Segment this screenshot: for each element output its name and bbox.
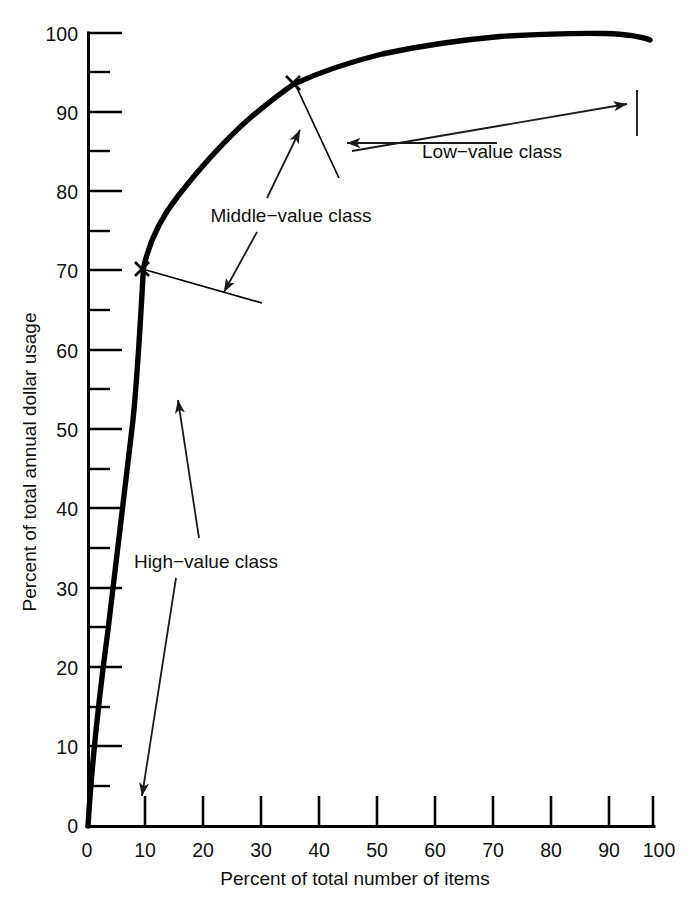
- chart-background: [0, 0, 689, 901]
- y-tick-label-20: 20: [56, 657, 78, 679]
- x-tick-label-0: 0: [82, 839, 93, 861]
- x-tick-label-100: 100: [643, 839, 676, 861]
- y-tick-label-0: 0: [67, 815, 78, 837]
- abc-analysis-chart: 100 90 80 70 60 50 40 30 20 10 0 0 10 20…: [0, 0, 689, 901]
- annotation-high-value-class: High−value class: [134, 551, 278, 572]
- y-axis-title: Percent of total annual dollar usage: [19, 313, 40, 612]
- x-axis-title: Percent of total number of items: [220, 868, 489, 889]
- x-tick-label-70: 70: [482, 839, 504, 861]
- pareto-chart-figure: 100 90 80 70 60 50 40 30 20 10 0 0 10 20…: [0, 0, 689, 901]
- y-tick-label-30: 30: [56, 578, 78, 600]
- x-tick-label-60: 60: [424, 839, 446, 861]
- y-tick-label-80: 80: [56, 181, 78, 203]
- x-tick-label-10: 10: [134, 839, 156, 861]
- y-tick-label-70: 70: [56, 260, 78, 282]
- annotation-middle-value-class: Middle−value class: [210, 205, 371, 226]
- y-tick-label-50: 50: [56, 419, 78, 441]
- x-tick-label-50: 50: [366, 839, 388, 861]
- x-tick-label-80: 80: [540, 839, 562, 861]
- y-tick-label-100: 100: [45, 23, 78, 45]
- y-tick-label-60: 60: [56, 340, 78, 362]
- x-tick-label-20: 20: [192, 839, 214, 861]
- annotation-low-value-class: Low−value class: [422, 141, 562, 162]
- y-tick-label-90: 90: [56, 102, 78, 124]
- x-tick-label-40: 40: [308, 839, 330, 861]
- y-tick-label-10: 10: [56, 736, 78, 758]
- x-tick-label-30: 30: [250, 839, 272, 861]
- y-tick-label-40: 40: [56, 498, 78, 520]
- x-tick-label-90: 90: [598, 839, 620, 861]
